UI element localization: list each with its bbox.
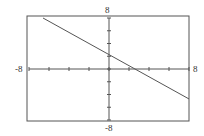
x-min-label: -8 — [15, 65, 23, 74]
x-max-label: 8 — [193, 65, 198, 74]
graph-plot — [0, 0, 204, 136]
y-max-label: 8 — [105, 6, 110, 15]
data-line — [43, 18, 189, 99]
y-min-label: -8 — [105, 124, 113, 133]
axes — [29, 18, 189, 120]
